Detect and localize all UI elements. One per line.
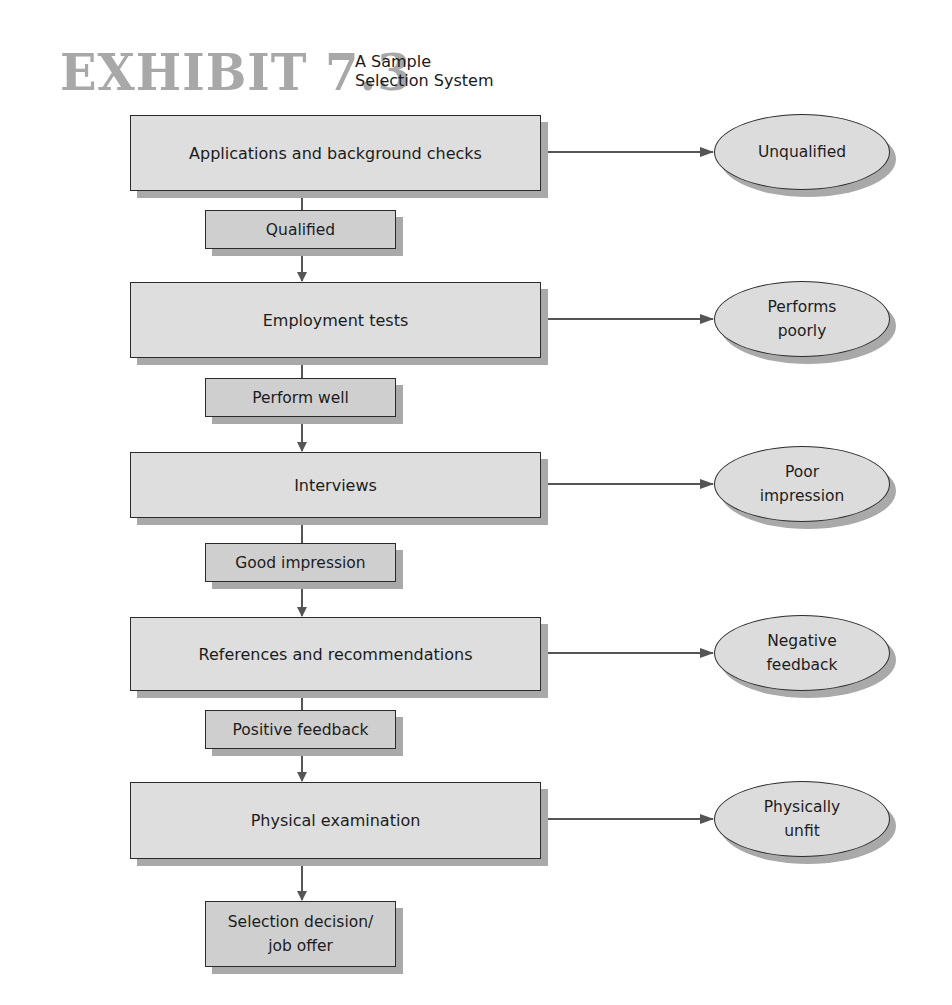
step-interviews-box: Interviews (130, 452, 541, 518)
step-employment-tests-box: Employment tests (130, 282, 541, 358)
exhibit-title-line1: A Sample (355, 52, 493, 71)
fail-poor-impression-ellipse: Poor impression (714, 446, 890, 522)
final-selection-line1: Selection decision/ (228, 910, 373, 934)
pass-perform-well-label: Perform well (252, 386, 349, 410)
fail-physically-unfit-ellipse: Physically unfit (714, 781, 890, 857)
pass-positive-feedback-box: Positive feedback (205, 710, 396, 749)
step-employment-tests-label: Employment tests (263, 311, 409, 330)
step-interviews-label: Interviews (294, 476, 377, 495)
exhibit-title-line2: Selection System (355, 71, 493, 90)
final-selection-line2: job offer (228, 934, 373, 958)
fail-performs-poorly-line2: poorly (768, 319, 837, 343)
pass-good-impression-box: Good impression (205, 543, 396, 582)
step-references-box: References and recommendations (130, 617, 541, 691)
step-applications-label: Applications and background checks (189, 144, 482, 163)
fail-negative-feedback-line2: feedback (766, 653, 837, 677)
pass-perform-well-box: Perform well (205, 378, 396, 417)
fail-poor-impression-line2: impression (760, 484, 845, 508)
fail-unqualified-ellipse: Unqualified (714, 114, 890, 190)
fail-poor-impression-line1: Poor (760, 460, 845, 484)
fail-performs-poorly-ellipse: Performs poorly (714, 281, 890, 357)
fail-physically-unfit-line2: unfit (764, 819, 841, 843)
fail-negative-feedback-ellipse: Negative feedback (714, 615, 890, 691)
step-references-label: References and recommendations (199, 645, 473, 664)
pass-qualified-label: Qualified (266, 218, 335, 242)
fail-performs-poorly-line1: Performs (768, 295, 837, 319)
fail-unqualified-label: Unqualified (758, 140, 846, 164)
fail-physically-unfit-line1: Physically (764, 795, 841, 819)
final-selection-decision-box: Selection decision/ job offer (205, 901, 396, 967)
step-applications-box: Applications and background checks (130, 115, 541, 191)
fail-negative-feedback-line1: Negative (766, 629, 837, 653)
step-physical-exam-box: Physical examination (130, 782, 541, 859)
step-physical-exam-label: Physical examination (251, 811, 421, 830)
pass-good-impression-label: Good impression (235, 551, 365, 575)
exhibit-title: A Sample Selection System (355, 52, 493, 90)
pass-positive-feedback-label: Positive feedback (233, 718, 369, 742)
pass-qualified-box: Qualified (205, 210, 396, 249)
